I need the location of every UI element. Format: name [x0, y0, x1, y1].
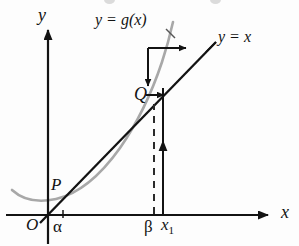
curve-label-g-arg: (x)	[129, 11, 147, 28]
tick-label-x1-subscript: 1	[169, 224, 175, 236]
curve-label-y-equals-x: y = x	[218, 29, 251, 45]
line-y-equals-x	[40, 42, 216, 223]
point-label-q: Q	[134, 85, 147, 103]
tick-label-x1-base: x	[161, 215, 169, 234]
identity-label-rhs: x	[244, 28, 251, 45]
tick-label-x1: x1	[161, 216, 174, 236]
leader-line-identity-label	[206, 42, 216, 52]
figure-canvas	[0, 0, 299, 246]
up-arrowhead-x1	[159, 140, 168, 151]
origin-label: O	[26, 216, 38, 233]
curve-label-g-of-x: y = g(x)	[95, 12, 147, 28]
x-axis-label: x	[281, 203, 289, 221]
y-axis-label: y	[38, 6, 46, 24]
curve-label-g-prefix: y = g	[95, 11, 129, 28]
tick-label-alpha: α	[53, 218, 62, 235]
fixed-point-cobweb-figure: y x O α β x1 P Q y = g(x) y = x	[0, 0, 299, 246]
tick-label-beta: β	[144, 218, 153, 235]
point-label-p: P	[51, 176, 61, 193]
identity-label-lhs: y =	[218, 28, 244, 45]
